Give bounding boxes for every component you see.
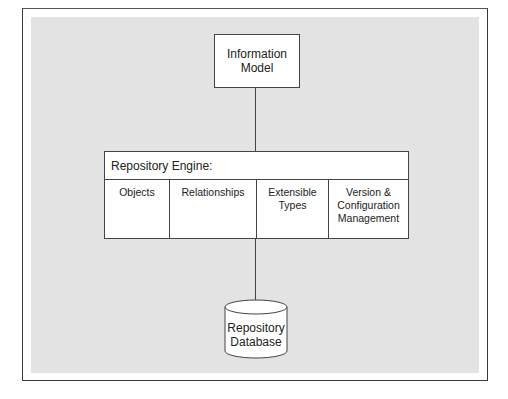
information-model-node: Information Model [214,34,300,88]
component-version-line1: Version & [329,186,408,199]
edge-engine-to-database [255,239,256,304]
component-relationships-label: Relationships [170,186,256,199]
component-extensible-types-line1: Extensible [257,186,328,199]
component-version-line2: Configuration [329,199,408,212]
information-model-label-line1: Information [227,47,287,61]
repository-engine-node: Repository Engine: Objects Relationships… [104,151,409,239]
component-relationships: Relationships [169,180,256,238]
repository-database-label: Repository Database [224,321,288,349]
information-model-label-line2: Model [227,61,287,75]
repository-database-line1: Repository [224,321,288,335]
component-objects: Objects [105,180,169,238]
component-version-line3: Management [329,212,408,225]
component-extensible-types-line2: Types [257,199,328,212]
component-extensible-types: Extensible Types [256,180,328,238]
edge-model-to-engine [255,88,256,151]
component-version-configuration: Version & Configuration Management [328,180,408,238]
repository-engine-title: Repository Engine: [105,152,408,180]
component-objects-label: Objects [105,186,169,199]
repository-database-line2: Database [224,335,288,349]
